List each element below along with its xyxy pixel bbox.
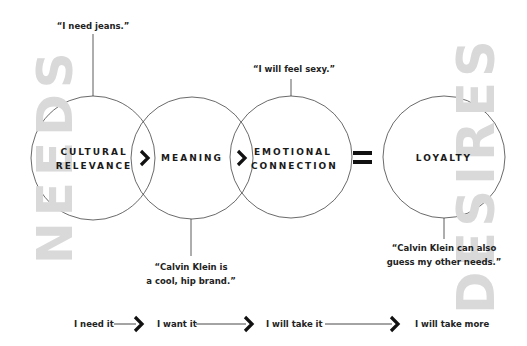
arrow-right-icon — [114, 317, 142, 331]
label-meaning: MEANING — [152, 151, 232, 165]
chevron-right-icon — [238, 151, 245, 165]
progression-step: I will take more — [415, 318, 489, 330]
arrow-right-icon — [196, 317, 252, 331]
chevron-right-icon — [141, 151, 148, 165]
equals-icon — [353, 151, 372, 164]
quote-line: “Calvin Klein is — [131, 260, 251, 274]
label-line: EMOTIONAL — [251, 145, 335, 159]
label-cultural-relevance: CULTURAL RELEVANCE — [54, 145, 134, 173]
quote-loyalty: “Calvin Klein can also guess my other ne… — [384, 241, 504, 269]
quote-line: guess my other needs.” — [384, 255, 504, 269]
label-line: CONNECTION — [251, 159, 335, 173]
progression-step: I will take it — [266, 318, 323, 330]
side-word-desires: DESIRES — [451, 35, 502, 314]
label-loyalty: LOYALTY — [404, 151, 484, 165]
label-line: MEANING — [152, 151, 232, 165]
quote-cultural-relevance: “I need jeans.” — [43, 19, 143, 33]
arrow-right-icon — [325, 317, 398, 331]
quote-meaning: “Calvin Klein is a cool, hip brand.” — [131, 260, 251, 288]
progression-step: I need it — [74, 318, 114, 330]
quote-line: “Calvin Klein can also — [384, 241, 504, 255]
label-emotional-connection: EMOTIONAL CONNECTION — [251, 145, 335, 173]
quote-emotional-connection: “I will feel sexy.” — [244, 62, 344, 76]
label-line: CULTURAL — [54, 145, 134, 159]
quote-line: a cool, hip brand.” — [131, 274, 251, 288]
progression-step: I want it — [157, 318, 197, 330]
label-line: RELEVANCE — [54, 159, 134, 173]
label-line: LOYALTY — [404, 151, 484, 165]
